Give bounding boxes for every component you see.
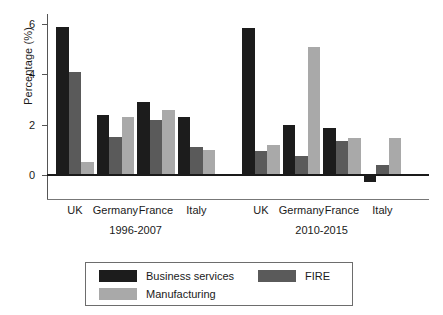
legend-item-business-services[interactable]: Business services xyxy=(99,267,234,285)
bar-business-services-france-1996-2007 xyxy=(137,102,150,175)
bar-manufacturing-uk-1996-2007 xyxy=(81,162,94,175)
bar-chart: Percentage (%) 0246 UKGermanyFranceItaly… xyxy=(0,0,443,315)
legend-item-fire[interactable]: FIRE xyxy=(258,267,330,285)
bar-business-services-uk-1996-2007 xyxy=(56,27,69,175)
bar-manufacturing-france-2010-2015 xyxy=(348,138,361,174)
bar-fire-uk-1996-2007 xyxy=(69,72,82,175)
legend-swatch-business-services xyxy=(99,270,137,282)
x-axis-label-4: UK xyxy=(253,204,268,216)
y-tick-label-4: 4 xyxy=(29,68,35,80)
legend-swatch-manufacturing xyxy=(99,288,137,300)
bar-business-services-france-2010-2015 xyxy=(323,128,336,175)
x-axis-label-6: France xyxy=(325,204,359,216)
bar-fire-italy-1996-2007 xyxy=(190,147,203,175)
bar-manufacturing-italy-2010-2015 xyxy=(389,138,402,174)
x-axis-period-labels: 1996-20072010-2015 xyxy=(47,224,429,240)
plot-area: 0246 xyxy=(47,14,429,200)
legend-label-manufacturing: Manufacturing xyxy=(146,288,216,300)
y-tick-label-2: 2 xyxy=(29,119,35,131)
x-axis-label-0: UK xyxy=(67,204,82,216)
y-tick-label-0: 0 xyxy=(29,169,35,181)
x-axis-period-1: 2010-2015 xyxy=(295,224,348,236)
bar-manufacturing-france-1996-2007 xyxy=(162,110,175,175)
legend-label-fire: FIRE xyxy=(305,270,330,282)
bar-fire-france-2010-2015 xyxy=(336,141,349,175)
x-axis-period-0: 1996-2007 xyxy=(109,224,162,236)
legend-row-2: Manufacturing xyxy=(86,285,352,303)
bar-business-services-uk-2010-2015 xyxy=(242,28,255,175)
bar-fire-france-1996-2007 xyxy=(150,120,163,175)
x-axis-labels: UKGermanyFranceItalyUKGermanyFranceItaly xyxy=(47,204,429,220)
legend-swatch-fire xyxy=(258,270,296,282)
bar-business-services-germany-1996-2007 xyxy=(97,115,110,175)
legend-label-business-services: Business services xyxy=(146,270,234,282)
bar-manufacturing-uk-2010-2015 xyxy=(267,145,280,175)
legend-item-manufacturing[interactable]: Manufacturing xyxy=(99,285,216,303)
bar-manufacturing-germany-1996-2007 xyxy=(122,117,135,175)
chart-legend: Business services FIRE Manufacturing xyxy=(85,262,353,306)
bar-manufacturing-italy-1996-2007 xyxy=(203,150,216,175)
bar-business-services-germany-2010-2015 xyxy=(283,125,296,175)
bar-business-services-italy-2010-2015 xyxy=(364,175,377,183)
x-axis-label-5: Germany xyxy=(279,204,324,216)
x-axis-label-7: Italy xyxy=(372,204,392,216)
bar-manufacturing-germany-2010-2015 xyxy=(308,47,321,175)
bar-fire-uk-2010-2015 xyxy=(255,151,268,175)
bar-fire-germany-1996-2007 xyxy=(109,137,122,175)
y-tick-label-6: 6 xyxy=(29,18,35,30)
zero-baseline xyxy=(47,174,429,175)
x-axis-label-2: France xyxy=(139,204,173,216)
legend-row-1: Business services FIRE xyxy=(86,267,352,285)
x-axis-label-1: Germany xyxy=(93,204,138,216)
bar-business-services-italy-1996-2007 xyxy=(178,117,191,175)
x-axis-label-3: Italy xyxy=(186,204,206,216)
bar-fire-germany-2010-2015 xyxy=(295,156,308,175)
bars-layer xyxy=(47,14,429,200)
axis-bottom-rule xyxy=(47,199,429,200)
